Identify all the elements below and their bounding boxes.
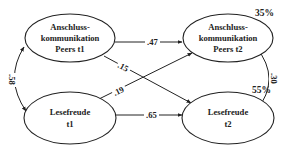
node-lesefreude-t1: Lesefreude t1 xyxy=(24,92,116,144)
node-label-line1: Anschluss- xyxy=(208,22,248,32)
coef-label-58: .58 xyxy=(7,74,17,85)
coef-label-47: .47 xyxy=(147,37,158,47)
path-diagram: .47 .15 .19 .65 .58 .30 Anschluss- kommu… xyxy=(0,0,287,147)
node-label-line2: t1 xyxy=(66,119,73,129)
node-label-line2: kommunikation xyxy=(41,33,100,43)
node-label-line1: Lesefreude xyxy=(50,107,91,117)
node-label-line1: Anschluss- xyxy=(50,22,90,32)
node-label-line3: Peers t1 xyxy=(55,44,84,54)
node-anschlusskommunikation-t1: Anschluss- kommunikation Peers t1 xyxy=(25,14,115,62)
node-label-line2: t2 xyxy=(224,119,231,129)
node-label-line3: Peers t2 xyxy=(213,44,242,54)
coef-label-30: .30 xyxy=(269,73,279,84)
node-lesefreude-t2: Lesefreude t2 xyxy=(182,92,274,144)
node-anschlusskommunikation-t2: Anschluss- kommunikation Peers t2 xyxy=(183,14,273,62)
node-label-line1: Lesefreude xyxy=(208,107,249,117)
explained-variance-lesefreude-t2: 55% xyxy=(252,85,271,95)
explained-variance-anschluss-t2: 35% xyxy=(255,8,274,18)
node-label-line2: kommunikation xyxy=(199,33,258,43)
coef-label-65: .65 xyxy=(146,110,157,120)
